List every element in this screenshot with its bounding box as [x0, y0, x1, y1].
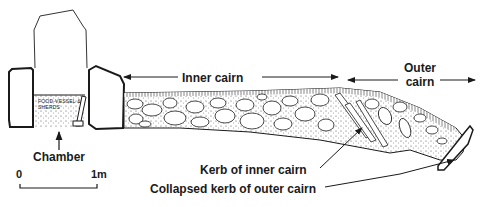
chamber-contents-line2: SHERDS — [38, 104, 81, 110]
left-orthostat — [9, 68, 33, 127]
outer-cairn-label: Outer cairn — [400, 61, 440, 89]
scale-end-label: 1m — [91, 168, 107, 180]
chamber-contents-label: FOOD-VESSEL & SHERDS — [38, 98, 81, 110]
collapsed-kerb-label: Collapsed kerb of outer cairn — [150, 182, 316, 196]
outer-cairn-label-line2: cairn — [400, 75, 440, 89]
right-orthostat — [89, 66, 124, 129]
inner-cairn-label: Inner cairn — [182, 71, 243, 85]
scale-bar — [20, 184, 97, 188]
outer-cairn-label-line1: Outer — [400, 61, 440, 75]
kerb-inner-label: Kerb of inner cairn — [200, 163, 307, 177]
standing-stone — [34, 10, 87, 68]
chamber-label: Chamber — [33, 150, 85, 164]
scale-start-label: 0 — [16, 168, 22, 180]
